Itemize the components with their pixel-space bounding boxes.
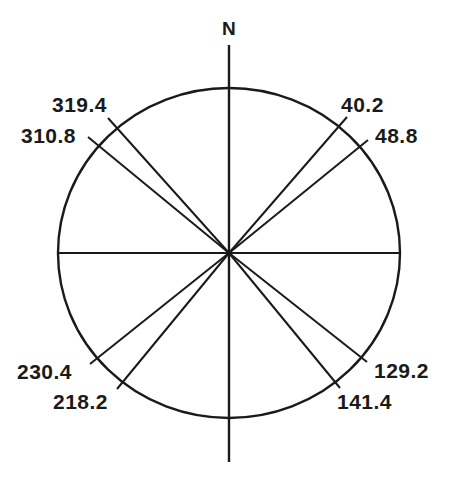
bearing-label: 218.2: [53, 391, 108, 412]
bearing-line: [88, 137, 229, 253]
bearing-label: 319.4: [52, 94, 107, 115]
bearing-line: [90, 253, 229, 364]
north-label: N: [222, 18, 236, 39]
bearing-line: [229, 140, 368, 253]
bearing-line: [108, 118, 229, 253]
bearing-label: 129.2: [374, 360, 429, 381]
bearing-line: [229, 117, 347, 253]
bearing-line: [117, 253, 229, 389]
bearing-line: [229, 253, 340, 388]
bearing-line: [229, 253, 367, 362]
bearing-label: 141.4: [337, 391, 392, 412]
bearing-label: 310.8: [21, 125, 76, 146]
bearing-label: 230.4: [17, 361, 72, 382]
bearing-label: 48.8: [375, 125, 418, 146]
bearing-label: 40.2: [341, 94, 384, 115]
